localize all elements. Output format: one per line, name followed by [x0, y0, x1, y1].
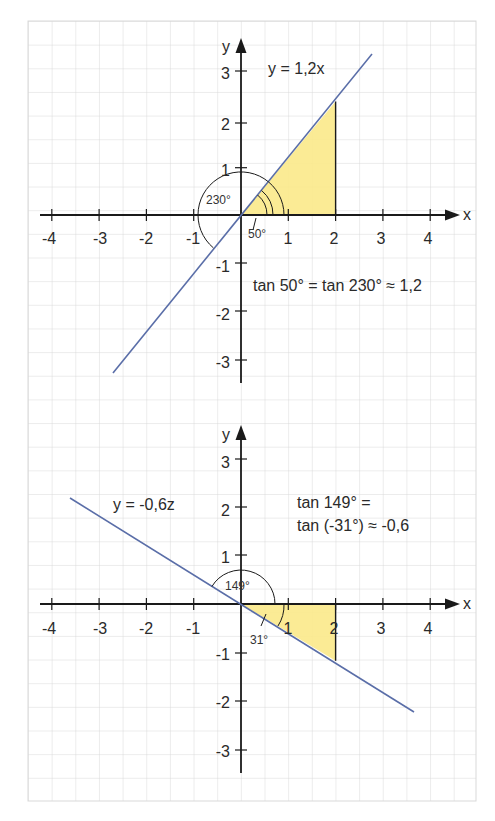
- tangent-formula-line1: tan 149° =: [297, 494, 371, 511]
- svg-text:2: 2: [330, 620, 339, 637]
- svg-text:-3: -3: [216, 743, 230, 760]
- tangent-formula: tan 50° = tan 230° ≈ 1,2: [253, 277, 422, 294]
- svg-text:3: 3: [221, 454, 230, 471]
- svg-text:-2: -2: [139, 230, 153, 247]
- svg-text:-1: -1: [186, 230, 200, 247]
- x-axis-label: x: [463, 206, 471, 223]
- angle-label-31: 31°: [250, 633, 268, 647]
- svg-text:2: 2: [221, 116, 230, 133]
- equation-label: y = -0,6z: [113, 496, 175, 513]
- svg-text:-1: -1: [216, 646, 230, 663]
- svg-text:-2: -2: [216, 694, 230, 711]
- svg-text:-3: -3: [93, 620, 107, 637]
- svg-text:3: 3: [377, 230, 386, 247]
- svg-text:3: 3: [377, 620, 386, 637]
- svg-text:1: 1: [221, 162, 230, 179]
- svg-text:-3: -3: [93, 230, 107, 247]
- svg-text:-1: -1: [216, 258, 230, 275]
- svg-text:2: 2: [221, 502, 230, 519]
- svg-text:1: 1: [221, 549, 230, 566]
- svg-text:1: 1: [284, 230, 293, 247]
- y-axis-label: y: [222, 426, 230, 443]
- svg-text:-1: -1: [186, 620, 200, 637]
- equation-label: y = 1,2x: [268, 60, 324, 77]
- svg-text:1: 1: [284, 620, 293, 637]
- svg-text:-2: -2: [216, 306, 230, 323]
- svg-text:4: 4: [424, 620, 433, 637]
- angle-label-230: 230°: [206, 193, 231, 207]
- tangent-diagram: -4 -3 -2 -1 1 2 3 4 3 2 1 -1 -2 -3 y x y…: [0, 0, 495, 821]
- tangent-formula-line2: tan (-31°) ≈ -0,6: [297, 517, 409, 534]
- angle-label-50: 50°: [248, 227, 266, 241]
- angle-label-149: 149°: [225, 579, 250, 593]
- svg-text:-2: -2: [139, 620, 153, 637]
- x-axis-label: x: [463, 595, 471, 612]
- y-axis-label: y: [222, 38, 230, 55]
- svg-text:3: 3: [221, 65, 230, 82]
- svg-text:-4: -4: [42, 230, 56, 247]
- svg-text:4: 4: [424, 230, 433, 247]
- svg-text:2: 2: [330, 230, 339, 247]
- svg-text:-3: -3: [216, 354, 230, 371]
- graph-paper: [28, 21, 476, 801]
- svg-text:-4: -4: [42, 620, 56, 637]
